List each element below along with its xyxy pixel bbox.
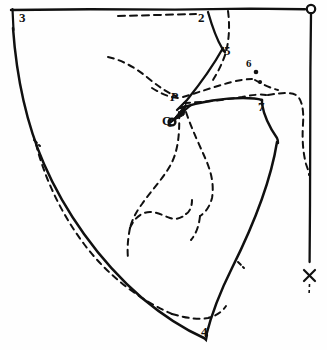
dash-p-to-six — [183, 79, 252, 97]
frame-solid-lines — [11, 9, 311, 262]
top-edge-line — [11, 9, 305, 10]
right-edge-line — [310, 14, 311, 262]
label-point-q: Q — [162, 114, 172, 127]
label-6: 6 — [246, 58, 252, 69]
dash-upper-left-sweep — [108, 57, 176, 96]
dash-step-connector — [186, 200, 192, 214]
right-cut-curve — [206, 142, 277, 336]
dash-center-descend-left — [130, 112, 179, 228]
right-edge-dash-tail — [309, 284, 310, 296]
pattern-diagram-figure: 3 2 5 6 7 4 P Q — [0, 0, 327, 350]
dash-top-segment — [118, 14, 196, 16]
label-7: 7 — [258, 100, 265, 113]
label-5: 5 — [224, 44, 231, 57]
dash-seam-allowance-left — [36, 144, 172, 314]
label-point-p: P — [170, 90, 178, 103]
origin-o-marker — [307, 5, 315, 13]
label-2: 2 — [198, 11, 205, 24]
dash-hem-line — [172, 306, 226, 319]
dash-inner-bulge — [130, 212, 186, 228]
dot-under-six — [254, 70, 259, 75]
label-3: 3 — [19, 11, 26, 24]
dashed-construction-lines — [34, 11, 309, 319]
dash-notch-tick-right — [238, 262, 244, 268]
pattern-diagram-canvas — [0, 0, 327, 350]
x-marker — [304, 270, 315, 281]
dash-lower-tail-left — [128, 228, 130, 258]
dash-center-descend-right — [186, 112, 213, 216]
label-4: 4 — [201, 325, 208, 338]
dash-lower-tail-center — [191, 216, 200, 240]
left-cut-curve — [13, 28, 204, 338]
shoulder-seam-line — [208, 12, 225, 52]
dot-below-six — [258, 80, 262, 84]
